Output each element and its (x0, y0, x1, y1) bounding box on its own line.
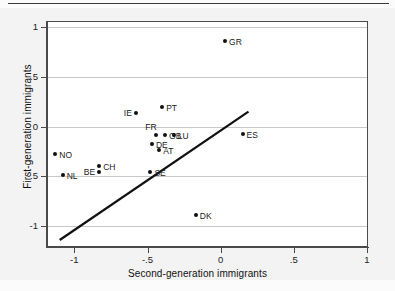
x-axis-title: Second-generation immigrants (0, 268, 395, 279)
data-point-ch[interactable] (97, 164, 101, 168)
x-axis-spine (47, 247, 369, 248)
x-axis-tick-label: 1 (364, 255, 369, 265)
data-point-label-ch: CH (103, 163, 115, 172)
plot-area: GRPTIEFRGBLUESDEATNOCHBESENLDK (48, 22, 367, 246)
data-point-label-ie: IE (124, 108, 132, 117)
data-point-label-fr: FR (145, 123, 156, 132)
y-axis-tick (41, 127, 46, 128)
data-point-es[interactable] (241, 132, 245, 136)
data-point-label-es: ES (247, 131, 258, 140)
data-point-nl[interactable] (61, 173, 65, 177)
data-point-label-nl: NL (67, 172, 78, 181)
plot-frame: GRPTIEFRGBLUESDEATNOCHBESENLDK (47, 21, 368, 247)
data-point-lu[interactable] (172, 133, 176, 137)
data-point-be[interactable] (97, 170, 101, 174)
x-axis-tick-label: 0 (218, 255, 223, 265)
data-point-label-at: AT (163, 147, 173, 156)
data-point-ie[interactable] (134, 111, 138, 115)
x-axis-tick (148, 248, 149, 253)
scatter-plot-figure: First-generation immigrants Second-gener… (0, 8, 395, 280)
x-axis-tick-label: -1 (70, 255, 78, 265)
y-axis-tick-label: -.5 (27, 171, 38, 181)
data-point-gb[interactable] (163, 133, 167, 137)
data-point-se[interactable] (148, 170, 152, 174)
data-point-label-gr: GR (229, 38, 242, 47)
x-axis-tick (74, 248, 75, 253)
data-point-de[interactable] (150, 142, 154, 146)
x-axis-tick-label: -.5 (142, 255, 153, 265)
y-axis-tick (41, 176, 46, 177)
y-axis-tick-label: 0 (33, 122, 38, 132)
data-point-label-no: NO (59, 151, 72, 160)
data-point-label-lu: LU (178, 132, 189, 141)
data-point-pt[interactable] (160, 105, 164, 109)
data-point-label-dk: DK (200, 212, 212, 221)
y-axis-tick (41, 77, 46, 78)
data-point-label-se: SE (154, 169, 165, 178)
x-axis-tick (367, 248, 368, 253)
y-axis-tick (41, 27, 46, 28)
data-point-label-be: BE (84, 168, 95, 177)
y-axis-tick (41, 226, 46, 227)
y-axis-tick-label: -1 (30, 221, 38, 231)
y-axis-tick-label: .5 (30, 72, 38, 82)
data-point-no[interactable] (53, 152, 57, 156)
x-axis-tick (294, 248, 295, 253)
data-point-dk[interactable] (194, 213, 198, 217)
y-axis-tick-label: 1 (33, 22, 38, 32)
data-point-gr[interactable] (223, 39, 227, 43)
data-point-fr[interactable] (154, 133, 158, 137)
page-top-rule (8, 3, 389, 4)
data-point-label-pt: PT (166, 103, 177, 112)
x-axis-tick-label: .5 (290, 255, 298, 265)
data-point-at[interactable] (157, 148, 161, 152)
x-axis-tick (221, 248, 222, 253)
